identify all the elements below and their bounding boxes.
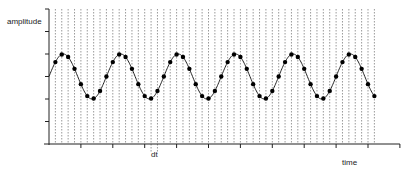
sample-point xyxy=(296,55,300,59)
sample-point xyxy=(359,67,363,71)
sample-point xyxy=(162,74,166,78)
sample-point xyxy=(85,94,89,98)
sample-point xyxy=(168,60,172,64)
sample-point xyxy=(238,55,242,59)
sample-point xyxy=(155,89,159,93)
sample-point xyxy=(174,52,178,56)
sample-point xyxy=(264,96,268,100)
sample-point xyxy=(340,60,344,64)
sample-point xyxy=(347,52,351,56)
y-axis-label: amplitude xyxy=(7,17,42,26)
sample-point xyxy=(187,67,191,71)
sample-point xyxy=(289,52,293,56)
sample-point xyxy=(308,82,312,86)
sample-point xyxy=(143,94,147,98)
sample-point xyxy=(270,89,274,93)
sample-point xyxy=(194,82,198,86)
chart-canvas xyxy=(0,0,410,175)
sample-point xyxy=(353,55,357,59)
x-axis-label: time xyxy=(342,158,357,167)
sample-point xyxy=(111,60,115,64)
sample-point xyxy=(104,74,108,78)
sample-point xyxy=(366,82,370,86)
sample-point xyxy=(232,52,236,56)
sample-point xyxy=(66,55,70,59)
sample-point xyxy=(91,96,95,100)
sample-point xyxy=(372,94,376,98)
sample-point xyxy=(245,67,249,71)
sample-point xyxy=(328,89,332,93)
sample-point xyxy=(60,52,64,56)
dt-label: dt xyxy=(151,150,158,159)
sample-point xyxy=(53,60,57,64)
sample-point xyxy=(123,55,127,59)
sample-point xyxy=(213,89,217,93)
sample-point xyxy=(206,96,210,100)
sample-point xyxy=(321,96,325,100)
sample-point xyxy=(302,67,306,71)
sample-point xyxy=(136,82,140,86)
sample-point xyxy=(98,89,102,93)
sample-point xyxy=(315,94,319,98)
sample-point xyxy=(117,52,121,56)
sample-point xyxy=(334,74,338,78)
sample-point xyxy=(219,74,223,78)
sample-point xyxy=(181,55,185,59)
sample-point xyxy=(72,67,76,71)
sample-point xyxy=(257,94,261,98)
signal-curve xyxy=(49,54,374,99)
sample-point xyxy=(79,82,83,86)
sample-point xyxy=(225,60,229,64)
sample-gridlines xyxy=(55,9,374,144)
sample-point xyxy=(276,74,280,78)
sample-point xyxy=(130,67,134,71)
sample-point xyxy=(200,94,204,98)
sample-point xyxy=(251,82,255,86)
sample-point xyxy=(149,96,153,100)
sample-point xyxy=(283,60,287,64)
